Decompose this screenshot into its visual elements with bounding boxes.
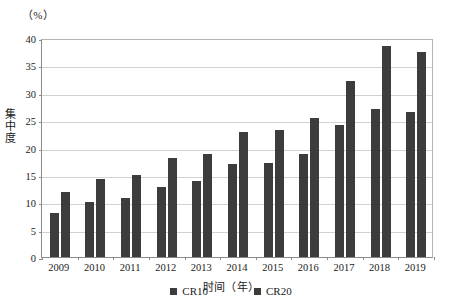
x-tick-label-2014: 2014 — [227, 262, 248, 273]
x-tick-label-2010: 2010 — [84, 262, 105, 273]
bar-cr20-2016 — [310, 118, 319, 257]
bar-cr10-2018 — [371, 109, 380, 257]
y-unit-label: （%） — [22, 6, 54, 22]
y-tick-label: 30 — [26, 88, 37, 99]
y-tick-mark — [39, 95, 42, 96]
bar-cr10-2013 — [192, 181, 201, 257]
x-tick-label-2013: 2013 — [191, 262, 212, 273]
y-tick-mark — [39, 122, 42, 123]
legend-label: CR20 — [266, 286, 292, 297]
bar-cr10-2011 — [121, 198, 130, 257]
gridline — [42, 95, 432, 96]
bar-cr20-2013 — [203, 154, 212, 257]
x-tick-mark — [434, 257, 435, 260]
y-tick-label: 20 — [26, 143, 37, 154]
x-tick-mark — [42, 257, 43, 260]
bar-cr10-2012 — [157, 187, 166, 257]
legend-swatch-icon — [170, 288, 177, 295]
y-tick-label: 15 — [26, 170, 37, 181]
legend-swatch-icon — [254, 288, 261, 295]
y-tick-mark — [39, 204, 42, 205]
x-tick-label-2017: 2017 — [333, 262, 354, 273]
x-tick-mark — [363, 257, 364, 260]
x-tick-label-2016: 2016 — [298, 262, 319, 273]
y-tick-label: 40 — [26, 34, 37, 45]
bar-cr20-2014 — [239, 132, 248, 257]
bar-cr10-2015 — [264, 163, 273, 257]
y-tick-label: 5 — [31, 225, 36, 236]
y-tick-mark — [39, 232, 42, 233]
bar-cr10-2010 — [85, 202, 94, 257]
bar-cr20-2012 — [168, 158, 177, 257]
bar-cr10-2017 — [335, 125, 344, 257]
x-tick-mark — [327, 257, 328, 260]
chart-legend: CR10CR20 — [0, 286, 462, 297]
bar-chart: （%） 集中度 0510152025303540 200920102011201… — [0, 0, 462, 303]
x-tick-mark — [185, 257, 186, 260]
bar-cr10-2016 — [299, 154, 308, 257]
legend-label: CR10 — [182, 286, 208, 297]
legend-item-cr20[interactable]: CR20 — [254, 286, 292, 297]
bar-cr20-2015 — [275, 130, 284, 257]
bar-cr20-2017 — [346, 81, 355, 257]
y-tick-label: 10 — [26, 198, 37, 209]
x-tick-label-2012: 2012 — [155, 262, 176, 273]
x-tick-label-2009: 2009 — [48, 262, 69, 273]
bar-cr10-2009 — [50, 213, 59, 257]
x-tick-mark — [220, 257, 221, 260]
y-tick-label: 0 — [31, 253, 36, 264]
x-tick-label-2019: 2019 — [405, 262, 426, 273]
x-tick-mark — [78, 257, 79, 260]
plot-area — [41, 39, 433, 258]
x-tick-mark — [291, 257, 292, 260]
x-tick-label-2018: 2018 — [369, 262, 390, 273]
y-tick-mark — [39, 40, 42, 41]
legend-item-cr10[interactable]: CR10 — [170, 286, 208, 297]
x-tick-mark — [398, 257, 399, 260]
y-tick-mark — [39, 67, 42, 68]
x-tick-mark — [113, 257, 114, 260]
y-tick-label: 25 — [26, 116, 37, 127]
bar-cr20-2011 — [132, 175, 141, 257]
y-tick-label: 35 — [26, 61, 37, 72]
bar-cr10-2019 — [406, 112, 415, 257]
x-tick-mark — [149, 257, 150, 260]
bar-cr20-2009 — [61, 192, 70, 257]
y-axis-title: 集中度 — [2, 108, 16, 144]
y-tick-mark — [39, 177, 42, 178]
x-tick-label-2015: 2015 — [262, 262, 283, 273]
x-tick-mark — [256, 257, 257, 260]
bar-cr20-2019 — [417, 52, 426, 257]
bar-cr10-2014 — [228, 164, 237, 257]
bar-cr20-2018 — [382, 46, 391, 257]
bar-cr20-2010 — [96, 179, 105, 257]
y-tick-mark — [39, 150, 42, 151]
x-tick-label-2011: 2011 — [120, 262, 141, 273]
gridline — [42, 67, 432, 68]
